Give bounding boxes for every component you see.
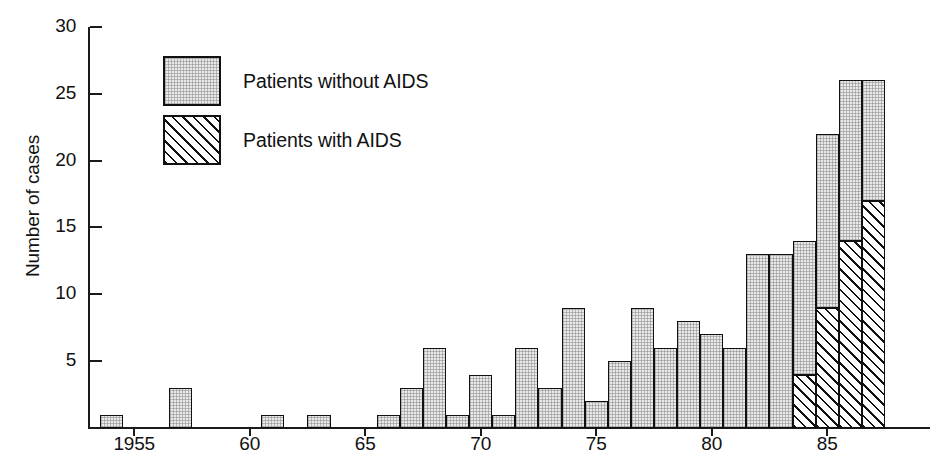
bar-segment-without-aids [538,388,561,428]
legend-item-label: Patients without AIDS [243,70,428,92]
y-axis-tick [90,93,102,95]
y-axis-tick-label: 30 [36,16,76,35]
bar-segment-without-aids [377,415,400,428]
bar-segment-without-aids [839,80,862,240]
bar-segment-without-aids [631,308,654,428]
diagonal-hatch-swatch [163,115,221,165]
x-axis-tick-label: 65 [320,434,410,454]
bar-1985 [816,134,839,428]
bar-segment-without-aids [585,401,608,428]
bar-segment-without-aids [492,415,515,428]
bar-1970 [469,375,492,428]
bar-chart: Number of cases 51015202530 195560657075… [0,0,939,472]
bar-segment-without-aids [469,375,492,428]
y-axis-tick-label-wrap: 30 [36,16,80,35]
bar-1986 [839,80,862,428]
y-axis-tick-label: 10 [36,283,76,302]
chart-legend: Patients without AIDS Patients with AIDS [163,56,428,174]
bar-segment-with-aids [862,201,885,428]
bar-segment-without-aids [515,348,538,428]
bar-segment-without-aids [423,348,446,428]
y-axis-tick [90,26,102,28]
bar-1979 [677,321,700,428]
bar-segment-without-aids [793,241,816,375]
bar-1975 [585,401,608,428]
bar-segment-with-aids [816,308,839,428]
y-axis-tick [90,160,102,162]
bar-1974 [562,308,585,428]
bar-1968 [423,348,446,428]
y-axis-tick-label-wrap: 5 [36,350,80,369]
x-axis-tick-label: 60 [205,434,295,454]
bar-segment-with-aids [839,241,862,428]
bar-1982 [746,254,769,428]
bar-1977 [631,308,654,428]
bar-1981 [723,348,746,428]
bar-1967 [400,388,423,428]
plain-fill-swatch [163,56,221,106]
y-axis-tick-label: 25 [36,83,76,102]
legend-item-with-aids: Patients with AIDS [163,115,428,165]
bar-segment-without-aids [307,415,330,428]
y-axis-tick-label: 5 [36,350,76,369]
y-axis-tick-label-wrap: 25 [36,83,80,102]
bar-1972 [515,348,538,428]
bar-segment-without-aids [608,361,631,428]
bar-1984 [793,241,816,428]
bar-segment-without-aids [400,388,423,428]
bar-1978 [654,348,677,428]
bar-1976 [608,361,631,428]
x-axis-tick-label: 80 [667,434,757,454]
y-axis-tick-label: 15 [36,216,76,235]
x-axis-tick-label: 85 [782,434,872,454]
x-axis-tick-label: 75 [551,434,641,454]
legend-item-label: Patients with AIDS [243,129,402,151]
y-axis-tick [90,360,102,362]
bar-segment-without-aids [816,134,839,308]
bar-segment-without-aids [700,334,723,428]
bar-segment-without-aids [562,308,585,428]
bar-1954 [100,415,123,428]
bar-segment-without-aids [446,415,469,428]
plot-area [0,0,939,429]
bar-1971 [492,415,515,428]
y-axis-tick-label-wrap: 10 [36,283,80,302]
bar-1966 [377,415,400,428]
y-axis-tick-label: 20 [36,150,76,169]
bar-1963 [307,415,330,428]
bar-1973 [538,388,561,428]
bar-1969 [446,415,469,428]
bar-segment-without-aids [261,415,284,428]
x-axis-tick-label: 70 [436,434,526,454]
bar-1983 [769,254,792,428]
y-axis-tick-label-wrap: 15 [36,216,80,235]
bar-1987 [862,80,885,428]
y-axis-tick-label-wrap: 20 [36,150,80,169]
y-axis-tick [90,293,102,295]
bar-segment-with-aids [793,375,816,428]
bar-segment-without-aids [769,254,792,428]
bar-segment-without-aids [169,388,192,428]
bar-1957 [169,388,192,428]
bar-segment-without-aids [654,348,677,428]
y-axis-tick [90,226,102,228]
bar-segment-without-aids [677,321,700,428]
bar-segment-without-aids [100,415,123,428]
bar-segment-without-aids [746,254,769,428]
legend-item-without-aids: Patients without AIDS [163,56,428,106]
bar-1980 [700,334,723,428]
bar-1961 [261,415,284,428]
bar-segment-without-aids [723,348,746,428]
bar-segment-without-aids [862,80,885,200]
x-axis-tick-label: 1955 [89,434,179,454]
